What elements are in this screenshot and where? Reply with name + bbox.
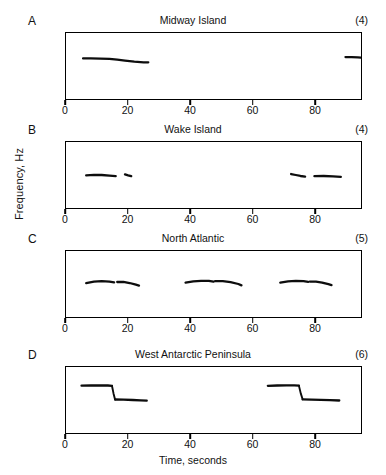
- panel-a-y-tickmark-10: [65, 83, 66, 85]
- panel-a-title: Midway Island: [0, 14, 386, 26]
- trace-call-3b: [310, 282, 332, 286]
- trace-call-2: [125, 174, 131, 176]
- panel-a-x-tick-40: 40: [184, 104, 196, 116]
- panel-c-x-tick-80: 80: [309, 322, 321, 334]
- panel-d-y-tickmark-30: [65, 383, 66, 385]
- panel-d-y-tickmark-40: [65, 366, 66, 368]
- trace-call-2-lower: [303, 399, 340, 400]
- trace-call-1a: [86, 281, 114, 283]
- panel-d-plot-area: 010203040: [65, 366, 362, 434]
- panel-a-x-tick-80: 80: [309, 104, 321, 116]
- panel-b-y-tickmark-10: [65, 192, 66, 194]
- trace-call-2a: [186, 281, 214, 283]
- panel-c-title: North Atlantic: [0, 232, 386, 244]
- trace-call-3a: [280, 281, 308, 283]
- trace-call-1-sweep: [112, 386, 115, 400]
- trace-call-2b: [215, 281, 241, 285]
- panel-b-x-tick-60: 60: [247, 213, 259, 225]
- panel-a-spectrogram: [66, 33, 361, 99]
- panel-c-x-tick-40: 40: [184, 322, 196, 334]
- trace-call-1: [83, 58, 148, 62]
- panel-a-x-axis: 020406080: [65, 100, 362, 118]
- panel-c-y-tickmark-40: [65, 250, 66, 252]
- trace-call-1b: [117, 282, 139, 286]
- panel-b-x-tick-20: 20: [122, 213, 134, 225]
- panel-c-plot-area: 010203040: [65, 250, 362, 318]
- x-axis-label: Time, seconds: [0, 454, 386, 466]
- panel-d-x-axis: 020406080: [65, 434, 362, 452]
- panel-c-x-tick-60: 60: [247, 322, 259, 334]
- panel-c-spectrogram: [66, 251, 361, 317]
- panel-b-x-tick-80: 80: [309, 213, 321, 225]
- trace-call-1: [86, 175, 116, 176]
- panel-b-title: Wake Island: [0, 123, 386, 135]
- spectrogram-figure: Frequency, Hz A Midway Island (4) 010203…: [0, 0, 386, 475]
- panel-d-spectrogram: [66, 367, 361, 433]
- panel-d-count: (6): [355, 348, 368, 360]
- panel-b-plot-area: 010203040: [65, 141, 362, 209]
- panel-d-y-tickmark-20: [65, 400, 66, 402]
- panel-b-y-tickmark-20: [65, 175, 66, 177]
- trace-call-2-sweep: [299, 386, 303, 400]
- panel-b-count: (4): [355, 123, 368, 135]
- panel-a-x-tick-0: 0: [62, 104, 68, 116]
- panel-b-x-tick-0: 0: [62, 213, 68, 225]
- panel-d-x-tick-0: 0: [62, 438, 68, 450]
- panel-b-x-axis: 020406080: [65, 209, 362, 227]
- trace-call-4: [314, 176, 340, 177]
- panel-d-x-tick-40: 40: [184, 438, 196, 450]
- panel-b-spectrogram: [66, 142, 361, 208]
- panel-c-count: (5): [355, 232, 368, 244]
- panel-b-y-tickmark-30: [65, 158, 66, 160]
- panel-c-x-tick-20: 20: [122, 322, 134, 334]
- panel-a-count: (4): [355, 14, 368, 26]
- panel-d-x-tick-80: 80: [309, 438, 321, 450]
- panel-c-x-tick-0: 0: [62, 322, 68, 334]
- trace-call-3: [291, 174, 305, 177]
- panel-a-y-tickmark-40: [65, 32, 66, 34]
- panel-d-x-tick-20: 20: [122, 438, 134, 450]
- panel-d-title: West Antarctic Peninsula: [0, 348, 386, 360]
- panel-d-x-tick-60: 60: [247, 438, 259, 450]
- panel-c-y-tickmark-20: [65, 284, 66, 286]
- y-axis-label: Frequency, Hz: [13, 119, 25, 249]
- panel-b-x-tick-40: 40: [184, 213, 196, 225]
- panel-d-y-tickmark-10: [65, 417, 66, 419]
- panel-a-y-tickmark-30: [65, 49, 66, 51]
- panel-a-plot-area: 010203040: [65, 32, 362, 100]
- panel-b-y-tickmark-40: [65, 141, 66, 143]
- panel-a-y-tickmark-20: [65, 66, 66, 68]
- panel-c-y-tickmark-30: [65, 267, 66, 269]
- panel-a-x-tick-60: 60: [247, 104, 259, 116]
- panel-c-x-axis: 020406080: [65, 318, 362, 336]
- trace-call-1-lower: [115, 400, 147, 401]
- panel-c-y-tickmark-10: [65, 301, 66, 303]
- panel-a-x-tick-20: 20: [122, 104, 134, 116]
